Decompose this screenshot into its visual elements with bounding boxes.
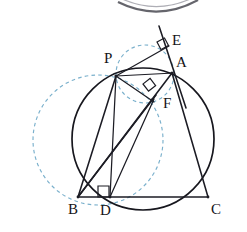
vertex-dot-C [207,196,210,199]
right-angle-at-F [143,78,156,91]
segment-AC [172,73,208,197]
geometry-figure: P A E F B D C [0,0,247,232]
vertex-dot-P [114,74,117,77]
vertex-dot-F [151,99,154,102]
point-label-B: B [68,202,78,217]
point-label-A: A [176,55,187,70]
cropped-arc-above [116,0,200,12]
vertex-dot-A [170,71,173,74]
point-label-D: D [100,203,111,218]
point-label-P: P [104,51,112,66]
geometry-canvas [0,0,247,232]
circumcircle-ABC [72,68,214,210]
vertex-dot-B [77,196,80,199]
vertex-dot-D [109,196,112,199]
segment-DF [110,99,154,197]
segment-PA [116,73,174,76]
segment-PE [116,46,169,76]
point-label-E: E [172,33,181,48]
point-label-F: F [163,96,171,111]
point-label-C: C [211,202,221,217]
